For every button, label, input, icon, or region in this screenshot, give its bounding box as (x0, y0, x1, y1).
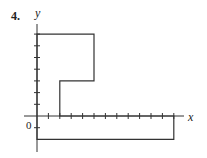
problem-number: 4. (11, 9, 20, 23)
x-axis-label: x (187, 110, 194, 124)
diagram: 4. y x 0 (0, 0, 207, 158)
y-axis-label: y (34, 6, 41, 20)
region-outline (37, 34, 174, 139)
origin-label: 0 (26, 119, 32, 131)
